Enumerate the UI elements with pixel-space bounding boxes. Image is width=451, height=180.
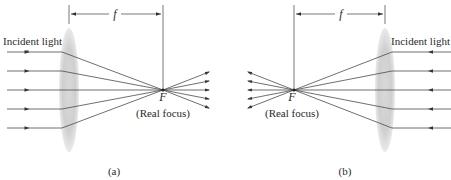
ray-arrow-icon — [428, 107, 433, 110]
arrowhead-right-icon — [378, 12, 383, 15]
ray-arrow-icon — [428, 88, 433, 91]
ray-arrow-icon — [428, 126, 433, 129]
ray-arrow-icon — [428, 50, 433, 53]
converging-lens-diagram: f Incident light — [0, 0, 451, 180]
arrowhead-left-icon — [296, 12, 301, 15]
focal-length-label: f — [339, 7, 344, 21]
real-focus-label: (Real focus) — [136, 107, 190, 120]
focal-point-label: F — [287, 90, 296, 104]
ray-arrow-icon — [25, 107, 30, 110]
focal-length-label: f — [113, 7, 118, 21]
arrowhead-right-icon — [156, 12, 161, 15]
ray-arrow-icon — [25, 88, 30, 91]
emergent-rays — [163, 70, 211, 110]
panel-caption: (b) — [339, 165, 352, 178]
focal-point-label: F — [158, 90, 167, 104]
ray-arrow-icon — [25, 126, 30, 129]
incident-light-label: Incident light — [391, 35, 450, 47]
panel-a: f Incident light — [3, 5, 211, 178]
ray-arrow-icon — [25, 69, 30, 72]
focal-length-dimension: f — [69, 5, 163, 90]
emergent-rays — [246, 70, 294, 110]
ray-arrow-icon — [428, 69, 433, 72]
arrowhead-left-icon — [71, 12, 76, 15]
real-focus-label: (Real focus) — [265, 107, 319, 120]
focal-length-dimension: f — [294, 5, 385, 90]
panel-b: f Incident light F — [246, 5, 451, 178]
panel-caption: (a) — [108, 165, 121, 178]
incident-light-label: Incident light — [3, 35, 62, 47]
